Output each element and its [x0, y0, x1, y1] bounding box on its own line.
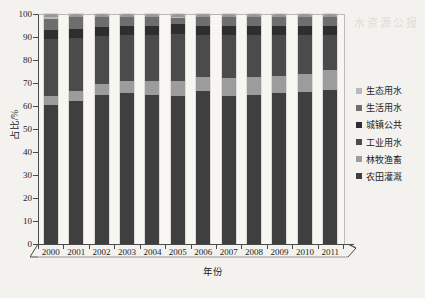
- bar-column[interactable]: [69, 14, 83, 244]
- bar-segment: [69, 101, 83, 244]
- x-axis-labels: 2000200120022003200420052006200720082009…: [38, 247, 354, 265]
- bar-segment: [247, 77, 261, 94]
- stacked-bar[interactable]: [196, 14, 210, 244]
- bar-column[interactable]: [44, 14, 58, 244]
- bar-segment: [95, 27, 109, 36]
- bar-segment: [272, 35, 286, 76]
- bar-column[interactable]: [298, 14, 312, 244]
- bar-segment: [95, 84, 109, 94]
- y-tick-label: 60: [23, 101, 32, 111]
- legend-label: 生活用水: [366, 101, 402, 114]
- bar-segment: [145, 95, 159, 245]
- bar-segment: [145, 26, 159, 35]
- bar-segment: [247, 26, 261, 35]
- legend-item[interactable]: 工业用水: [356, 136, 402, 149]
- legend-swatch-icon: [356, 173, 362, 179]
- x-tick-label: 2001: [67, 247, 85, 257]
- legend-label: 城镇公共: [366, 118, 402, 131]
- legend-item[interactable]: 林牧渔畜: [356, 153, 402, 166]
- bar-segment: [272, 76, 286, 93]
- legend-item[interactable]: 城镇公共: [356, 118, 402, 131]
- bar-column[interactable]: [323, 14, 337, 244]
- bar-segment: [95, 17, 109, 26]
- bar-top-cap: [247, 14, 261, 17]
- bar-segment: [196, 77, 210, 91]
- y-axis-title: 占比/%: [7, 95, 21, 155]
- bar-top-cap: [44, 14, 58, 17]
- bar-column[interactable]: [222, 14, 236, 244]
- y-tick-label: 80: [23, 55, 32, 65]
- legend-item[interactable]: 农田灌溉: [356, 170, 402, 183]
- stacked-bar[interactable]: [247, 14, 261, 244]
- bar-segment: [120, 35, 134, 81]
- bar-segment: [145, 81, 159, 95]
- legend-swatch-icon: [356, 105, 362, 111]
- y-tick-label: 100: [19, 9, 33, 19]
- legend-swatch-icon: [356, 122, 362, 128]
- legend-item[interactable]: 生活用水: [356, 101, 402, 114]
- stacked-bar[interactable]: [120, 14, 134, 244]
- legend-label: 工业用水: [366, 136, 402, 149]
- bar-segment: [44, 105, 58, 244]
- bar-column[interactable]: [120, 14, 134, 244]
- bar-column[interactable]: [196, 14, 210, 244]
- x-tick-label: 2004: [143, 247, 161, 257]
- stacked-bar[interactable]: [69, 14, 83, 244]
- bar-segment: [272, 17, 286, 25]
- stacked-bar[interactable]: [145, 14, 159, 244]
- stacked-bar[interactable]: [323, 14, 337, 244]
- bar-top-cap: [298, 14, 312, 17]
- bar-segment: [145, 17, 159, 25]
- bar-segment: [69, 17, 83, 29]
- bar-segment: [69, 38, 83, 91]
- bar-top-cap: [95, 14, 109, 17]
- bar-segment: [222, 96, 236, 244]
- stacked-bar[interactable]: [95, 14, 109, 244]
- stacked-bar[interactable]: [171, 14, 185, 244]
- bar-column[interactable]: [145, 14, 159, 244]
- legend-item[interactable]: 生态用水: [356, 84, 402, 97]
- x-tick-label: 2000: [42, 247, 60, 257]
- bar-segment: [196, 91, 210, 244]
- bar-segment: [222, 35, 236, 79]
- bar-segment: [171, 81, 185, 96]
- y-tick-label: 10: [23, 216, 32, 226]
- bar-segment: [323, 17, 337, 25]
- bar-segment: [247, 95, 261, 245]
- stacked-bar[interactable]: [44, 14, 58, 244]
- y-tick-label: 30: [23, 170, 32, 180]
- bar-segment: [44, 96, 58, 105]
- bar-segment: [323, 90, 337, 244]
- bar-column[interactable]: [95, 14, 109, 244]
- bar-segment: [95, 36, 109, 84]
- bar-top-cap: [145, 14, 159, 17]
- bar-segment: [298, 35, 312, 74]
- bar-column[interactable]: [171, 14, 185, 244]
- legend-label: 农田灌溉: [366, 170, 402, 183]
- bar-segment: [171, 24, 185, 33]
- bar-top-cap: [222, 14, 236, 17]
- x-tick-label: 2002: [93, 247, 111, 257]
- bar-segment: [323, 26, 337, 35]
- x-tick-label: 2008: [245, 247, 263, 257]
- bar-segment: [120, 93, 134, 244]
- stacked-bar[interactable]: [272, 14, 286, 244]
- bar-segment: [247, 17, 261, 25]
- bar-segment: [120, 17, 134, 25]
- bar-segment: [222, 78, 236, 95]
- stacked-bar[interactable]: [298, 14, 312, 244]
- bar-top-cap: [272, 14, 286, 17]
- stacked-bar[interactable]: [222, 14, 236, 244]
- bar-column[interactable]: [272, 14, 286, 244]
- bar-segment: [171, 34, 185, 81]
- bar-segment: [120, 81, 134, 94]
- bar-segment: [222, 17, 236, 25]
- bar-series-group: [38, 14, 343, 244]
- bar-column[interactable]: [247, 14, 261, 244]
- bar-top-cap: [171, 14, 185, 17]
- y-tick-label: 40: [23, 147, 32, 157]
- bar-segment: [171, 18, 185, 25]
- bar-segment: [272, 93, 286, 244]
- bar-segment: [323, 70, 337, 90]
- x-tick-label: 2007: [220, 247, 238, 257]
